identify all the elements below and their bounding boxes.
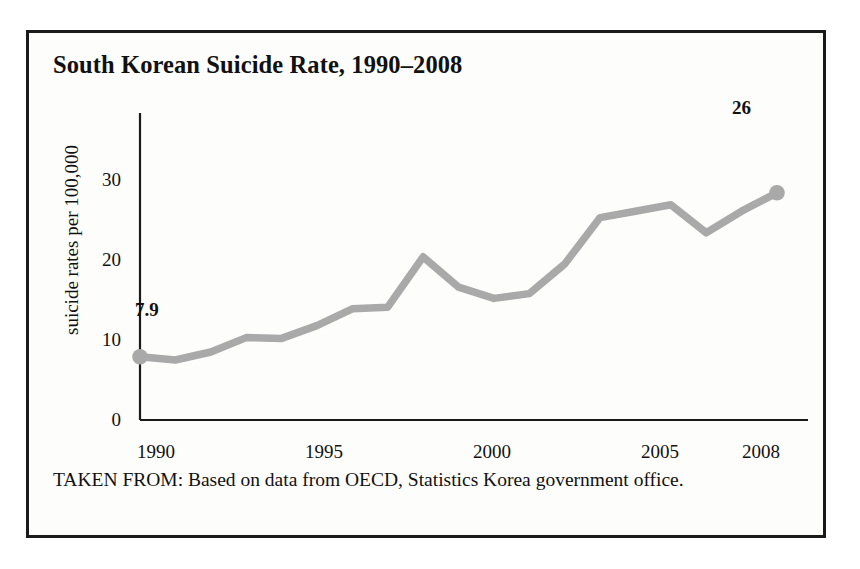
figure-frame: South Korean Suicide Rate, 1990–2008 sui… xyxy=(26,30,826,538)
figure-caption: TAKEN FROM: Based on data from OECD, Sta… xyxy=(53,465,797,495)
x-tick-1990: 1990 xyxy=(121,441,191,463)
chart-svg xyxy=(29,99,823,449)
series-line-suicide-rate xyxy=(140,193,777,360)
annotation-start-value: 7.9 xyxy=(135,299,159,321)
figure-page: South Korean Suicide Rate, 1990–2008 sui… xyxy=(0,0,860,569)
annotation-end-value: 26 xyxy=(732,97,751,119)
axis-lines xyxy=(140,113,808,420)
x-tick-1995: 1995 xyxy=(289,441,359,463)
x-tick-2000: 2000 xyxy=(457,441,527,463)
series-markers xyxy=(132,185,785,365)
data-point-marker-2008 xyxy=(769,185,785,201)
x-tick-2008: 2008 xyxy=(726,441,796,463)
data-point-marker-1990 xyxy=(132,349,148,365)
y-axis-label: suicide rates per 100,000 xyxy=(61,125,83,355)
x-tick-2005: 2005 xyxy=(625,441,695,463)
chart-title: South Korean Suicide Rate, 1990–2008 xyxy=(53,51,462,79)
y-tick-30: 30 xyxy=(81,169,121,191)
chart-plot-area: suicide rates per 100,000 30 20 10 0 199… xyxy=(29,99,823,449)
y-tick-10: 10 xyxy=(81,329,121,351)
y-tick-0: 0 xyxy=(81,409,121,431)
y-tick-20: 20 xyxy=(81,249,121,271)
